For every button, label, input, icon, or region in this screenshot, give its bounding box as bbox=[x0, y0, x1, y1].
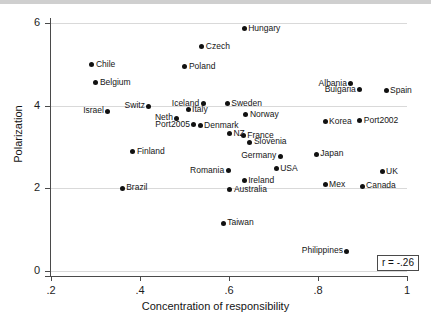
x-axis-tick-label: .2 bbox=[36, 285, 66, 296]
x-axis-tick bbox=[318, 276, 319, 281]
data-point bbox=[242, 178, 247, 183]
data-point bbox=[380, 169, 385, 174]
y-axis-title: Polarization bbox=[12, 64, 24, 204]
data-point-label: Korea bbox=[329, 117, 352, 126]
scan-artifact-strip bbox=[0, 0, 431, 4]
data-point bbox=[323, 119, 328, 124]
gridline bbox=[51, 271, 407, 272]
y-axis-tick-label: 0 bbox=[18, 265, 40, 276]
data-point-label: Chile bbox=[96, 60, 115, 69]
data-point bbox=[247, 140, 252, 145]
y-axis-tick bbox=[45, 106, 51, 107]
data-point bbox=[242, 26, 247, 31]
data-point bbox=[384, 88, 389, 93]
data-point bbox=[357, 87, 362, 92]
data-point-label: Czech bbox=[206, 42, 230, 51]
data-point bbox=[221, 221, 226, 226]
data-point-label: Italy bbox=[192, 105, 208, 114]
y-axis-tick bbox=[45, 188, 51, 189]
x-axis-tick bbox=[51, 276, 52, 281]
data-point bbox=[93, 80, 98, 85]
data-point bbox=[278, 154, 283, 159]
data-point bbox=[89, 62, 94, 67]
data-point bbox=[323, 182, 328, 187]
data-point bbox=[198, 123, 203, 128]
correlation-annotation: r = -.26 bbox=[377, 255, 419, 271]
data-point bbox=[241, 133, 246, 138]
data-point-label: Poland bbox=[189, 62, 215, 71]
data-point-label: Canada bbox=[366, 181, 396, 190]
data-point-label: Switz bbox=[125, 101, 145, 110]
data-point-label: Romania bbox=[190, 166, 224, 175]
data-point-label: Taiwan bbox=[227, 218, 253, 227]
data-point-label: Hungary bbox=[248, 24, 280, 33]
data-point-label: Bulgaria bbox=[325, 85, 356, 94]
x-axis-tick bbox=[229, 276, 230, 281]
data-point bbox=[146, 104, 151, 109]
data-point bbox=[274, 166, 279, 171]
data-point-label: Port2005 bbox=[155, 120, 190, 129]
data-point bbox=[243, 112, 248, 117]
data-point bbox=[226, 168, 231, 173]
data-point-label: Japan bbox=[320, 149, 343, 158]
x-axis-title: Concentration of responsibility bbox=[0, 300, 431, 312]
x-axis-tick bbox=[140, 276, 141, 281]
x-axis-tick-label: .4 bbox=[125, 285, 155, 296]
gridline bbox=[51, 106, 407, 107]
data-point-label: Australia bbox=[234, 185, 267, 194]
data-point-label: Philippines bbox=[302, 246, 343, 255]
data-point-label: Norway bbox=[250, 110, 279, 119]
y-axis-line bbox=[50, 18, 51, 276]
data-point bbox=[225, 101, 230, 106]
data-point bbox=[357, 118, 362, 123]
data-point-label: Brazil bbox=[126, 183, 147, 192]
data-point bbox=[130, 149, 135, 154]
x-axis-line bbox=[45, 276, 407, 277]
data-point-label: UK bbox=[386, 167, 398, 176]
data-point-label: Sweden bbox=[231, 99, 262, 108]
data-point bbox=[227, 187, 232, 192]
data-point-label: Port2002 bbox=[364, 116, 399, 125]
data-point-label: Israel bbox=[83, 106, 104, 115]
data-point bbox=[191, 122, 196, 127]
data-point-label: Belgium bbox=[100, 78, 131, 87]
y-axis-tick bbox=[45, 271, 51, 272]
gridline bbox=[51, 23, 407, 24]
data-point bbox=[227, 131, 232, 136]
data-point-label: Mex bbox=[329, 180, 345, 189]
x-axis-tick-label: 1 bbox=[392, 285, 422, 296]
data-point-label: Finland bbox=[137, 147, 165, 156]
data-point bbox=[105, 109, 110, 114]
y-axis-tick bbox=[45, 23, 51, 24]
data-point-label: USA bbox=[280, 164, 297, 173]
data-point bbox=[186, 107, 191, 112]
data-point bbox=[182, 64, 187, 69]
x-axis-tick-label: .8 bbox=[303, 285, 333, 296]
data-point-label: Germany bbox=[241, 151, 276, 160]
data-point bbox=[199, 44, 204, 49]
scatter-plot-figure: 0246 .2.4.6.81 HungaryCzechPolandChileBe… bbox=[0, 0, 431, 325]
data-point bbox=[314, 152, 319, 157]
data-point bbox=[344, 249, 349, 254]
data-point-label: Slovenia bbox=[254, 137, 287, 146]
data-point bbox=[360, 184, 365, 189]
y-axis-tick-label: 6 bbox=[18, 17, 40, 28]
data-point-label: Spain bbox=[390, 86, 412, 95]
x-axis-tick bbox=[407, 276, 408, 281]
data-point bbox=[120, 186, 125, 191]
x-axis-tick-label: .6 bbox=[214, 285, 244, 296]
